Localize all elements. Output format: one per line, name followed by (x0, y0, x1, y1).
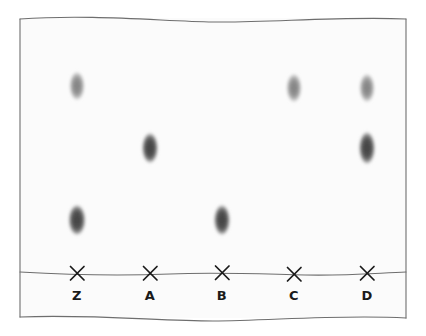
tlc-diagram-canvas: Z A B C (0, 0, 426, 336)
spot-z2 (68, 204, 86, 236)
spot-b1 (214, 204, 231, 236)
spot-d2 (359, 131, 376, 165)
spot-c1 (286, 73, 302, 103)
spot-a1 (142, 132, 159, 164)
spot-z1 (69, 71, 85, 101)
spot-d1 (359, 73, 375, 103)
tlc-plate-figure: Z A B C (0, 0, 426, 336)
lane-label-a: A (145, 288, 155, 303)
lane-label-d: D (361, 288, 372, 303)
lane-label-c: C (289, 288, 299, 303)
lane-label-z: Z (72, 288, 82, 303)
lane-label-b: B (217, 288, 227, 303)
